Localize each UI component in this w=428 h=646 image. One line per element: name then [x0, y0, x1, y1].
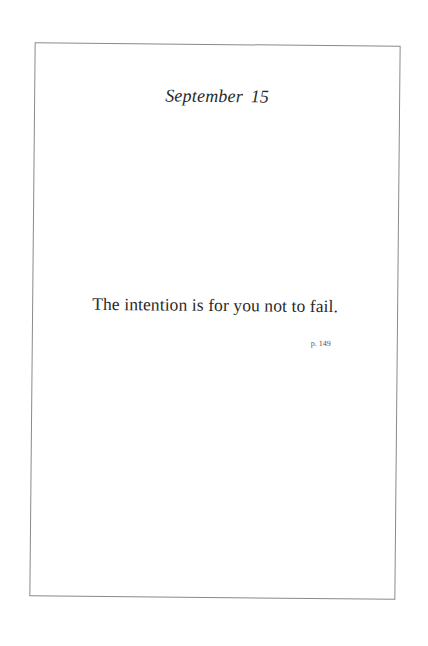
date-heading: September 15 [35, 84, 399, 108]
quote-text: The intention is for you not to fail. [33, 293, 397, 317]
page-reference: p. 149 [311, 339, 331, 348]
book-page: September 15 The intention is for you no… [29, 42, 400, 599]
